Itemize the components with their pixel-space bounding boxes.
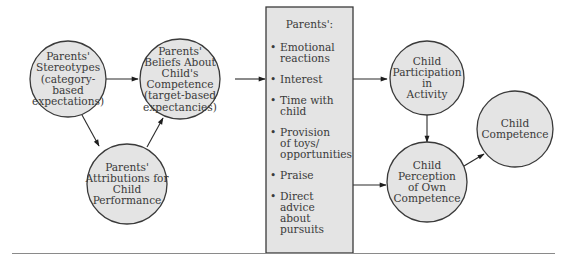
box-item-line: reactions — [280, 52, 330, 64]
box-item-line: Provision — [280, 126, 330, 138]
node-attributions: Parents'Attributions forChildPerformance — [84, 144, 169, 224]
node-label-line: Competence — [393, 192, 460, 204]
box-item-line: of toys/ — [280, 137, 320, 149]
bullet-icon: • — [270, 73, 276, 85]
node-beliefs: Parents'Beliefs AboutChild'sCompetence(t… — [140, 39, 220, 119]
node-label-line: (category- — [41, 73, 96, 85]
edge-stereotypes-to-attributions — [82, 115, 99, 146]
box-item-line: pursuits — [280, 223, 324, 235]
node-label-line: Child's — [162, 67, 199, 79]
node-perception: ChildPerceptionof OwnCompetence — [387, 142, 467, 222]
box-item-line: opportunities — [280, 148, 352, 160]
node-label-line: expectancies) — [143, 101, 217, 113]
node-label-line: Child — [501, 117, 530, 129]
node-label-line: Stereotypes — [36, 61, 100, 73]
node-stereotypes: Parents'Stereotypes(category-basedexpect… — [30, 41, 106, 117]
node-label-line: expectations) — [32, 95, 104, 107]
box-item-line: Time with — [280, 94, 334, 106]
node-label-line: Child — [413, 55, 442, 67]
diagram: Parents'Stereotypes(category-basedexpect… — [0, 0, 566, 270]
node-label-line: Parents' — [105, 161, 149, 173]
node-label-line: in — [422, 77, 432, 89]
node-label-line: Child — [113, 183, 142, 195]
node-participation: ChildParticipationinActivity — [390, 41, 464, 115]
parents-behaviors-box: Parents': •Emotionalreactions•Interest•T… — [266, 7, 353, 253]
edge-attributions-to-beliefs — [147, 118, 163, 147]
node-label-line: Child — [413, 159, 442, 171]
bullet-icon: • — [270, 41, 276, 53]
node-competence: ChildCompetence — [477, 91, 553, 167]
edge-perception-to-competence — [464, 154, 484, 166]
box-item-line: child — [280, 105, 307, 117]
node-label-line: Competence — [146, 78, 213, 90]
box-item-line: Interest — [280, 73, 323, 85]
bullet-icon: • — [270, 94, 276, 106]
node-label-line: Participation — [393, 66, 462, 78]
box-item-line: about — [280, 212, 311, 224]
bullet-icon: • — [270, 169, 276, 181]
node-label-line: Performance — [93, 194, 162, 206]
bullet-icon: • — [270, 126, 276, 138]
node-label-line: based — [52, 84, 84, 96]
node-label-line: Perception — [398, 170, 456, 182]
node-label-line: Parents' — [46, 50, 90, 62]
box-item-line: Praise — [280, 169, 314, 181]
box-item-line: Direct — [280, 190, 314, 202]
node-label-line: Attributions for — [84, 172, 169, 184]
bullet-icon: • — [270, 190, 276, 202]
node-label-line: (target-based — [144, 89, 216, 101]
box-item-line: advice — [280, 201, 315, 213]
node-label-line: of Own — [408, 181, 446, 193]
box-item-line: Emotional — [280, 41, 335, 53]
box-title: Parents': — [286, 18, 333, 30]
node-label-line: Beliefs About — [144, 56, 216, 68]
node-label-line: Activity — [406, 88, 448, 100]
node-label-line: Competence — [481, 128, 548, 140]
node-label-line: Parents' — [158, 45, 202, 57]
